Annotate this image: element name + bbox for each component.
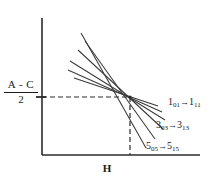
transition-line-2	[68, 70, 162, 112]
transition-label-1-01-1-11: 101→111	[168, 96, 201, 109]
transition-1-from-sub: 01	[173, 101, 180, 109]
transition-line-4	[78, 50, 163, 129]
convergence-point-marker	[128, 95, 131, 98]
transition-3-from-sub: 05	[151, 145, 158, 153]
x-axis-label: H	[92, 162, 122, 174]
transition-label-5-05-5-15: 505→515	[146, 140, 179, 153]
transition-line-6	[81, 33, 146, 148]
transition-2-to-sub: 13	[182, 124, 189, 132]
transition-line-3	[70, 61, 165, 120]
y-axis-label: A - C 2	[4, 79, 38, 105]
transition-line-group	[68, 33, 165, 148]
transition-1-to-sub: 11	[194, 101, 201, 109]
transition-1-arrow-icon: →	[180, 97, 189, 107]
transition-label-3-03-3-13: 303→313	[156, 119, 189, 132]
y-axis-label-numerator: A - C	[4, 79, 38, 93]
transition-2-from-sub: 03	[161, 124, 168, 132]
transition-line-5	[85, 41, 155, 139]
figure-canvas: A - C 2 H 101→111 303→313 505→515	[0, 0, 218, 182]
y-axis-label-denominator: 2	[4, 93, 38, 106]
transition-3-to-sub: 15	[172, 145, 179, 153]
transition-3-arrow-icon: →	[158, 141, 167, 151]
transition-2-arrow-icon: →	[168, 120, 177, 130]
